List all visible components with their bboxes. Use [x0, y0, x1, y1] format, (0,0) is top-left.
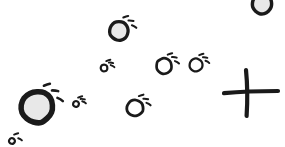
hachure-tick: [109, 63, 113, 64]
hachure-tick: [81, 99, 85, 100]
crater-large-left-rim: [21, 92, 52, 123]
crater-tiny-bottom-clipped-rim: [9, 138, 15, 144]
crater-sketch-canvas: [0, 0, 285, 147]
hachure-tick: [203, 57, 207, 58]
crater-top-right-clipped-rim: [252, 0, 271, 14]
crater-mid-right-b-rim: [190, 58, 203, 71]
crater-bottom-middle-rim: [127, 100, 143, 116]
hachure-tick: [128, 20, 133, 21]
crater-small-mid-left-rim: [101, 65, 108, 72]
hachure-tick: [143, 99, 148, 100]
cross-fiducial-vertical-stroke: [246, 70, 247, 116]
cross-fiducial-horizontal-stroke: [224, 91, 278, 93]
figure-container: Hand-drawn crater map sketch Sketch of c…: [0, 0, 285, 147]
crater-top-right-clipped: [252, 0, 271, 14]
hachure-tick: [172, 57, 177, 58]
crater-tiny-left-rim: [73, 101, 79, 107]
hachure-tick: [52, 90, 58, 91]
crater-mid-right-a-rim: [157, 58, 172, 74]
crater-medium-top-rim: [110, 22, 129, 41]
figure-background: [0, 0, 285, 147]
